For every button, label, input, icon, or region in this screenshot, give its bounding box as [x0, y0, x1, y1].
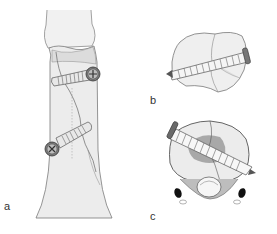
panel-label-a: a: [4, 200, 10, 212]
bone-illustration-a: [0, 0, 140, 234]
vessel-right: [237, 187, 247, 199]
cross-section-b: [140, 0, 277, 115]
cross-section-c: [140, 115, 277, 234]
panel-label-b: b: [150, 94, 156, 106]
panel-b: b: [140, 0, 277, 115]
panel-c: c: [140, 115, 277, 234]
panel-label-c: c: [150, 210, 156, 222]
vessel-left: [173, 187, 183, 199]
panel-a: a: [0, 0, 140, 234]
